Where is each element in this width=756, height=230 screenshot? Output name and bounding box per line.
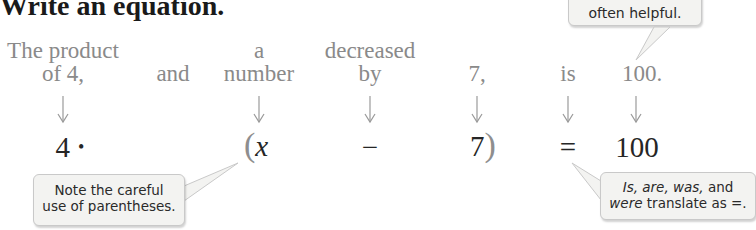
italic-words: Is, are, was, xyxy=(623,179,704,195)
eq-close-paren: ) xyxy=(485,126,496,163)
down-arrow-icons xyxy=(58,96,641,122)
down-arrow-icon xyxy=(631,96,641,122)
eq-minus: − xyxy=(362,132,378,162)
italic-words: were xyxy=(609,195,642,211)
down-arrow-icon xyxy=(365,96,375,122)
eq-x: x xyxy=(255,130,268,162)
eq-equals: = xyxy=(560,132,576,162)
down-arrow-icon xyxy=(58,96,68,122)
callout-parentheses-line1: Note the careful xyxy=(34,182,184,198)
eq-four: 4• xyxy=(56,132,85,162)
eq-open-x: (x xyxy=(244,130,268,161)
eq-dot: • xyxy=(78,137,84,157)
eq-seven: 7 xyxy=(470,130,485,162)
callout-parentheses-line2: use of parentheses. xyxy=(34,198,184,214)
down-arrow-icon xyxy=(472,96,482,122)
callout-is-are-was: Is, are, was, and were translate as =. xyxy=(600,172,756,220)
callout-tail xyxy=(636,27,670,60)
callout-tail xyxy=(184,163,238,201)
callout-is-are-was-line1: Is, are, was, and xyxy=(601,179,755,195)
down-arrow-icon xyxy=(563,96,573,122)
eq-seven-close: 7) xyxy=(470,130,496,161)
down-arrow-icon xyxy=(254,96,264,122)
eq-hundred: 100 xyxy=(615,132,659,162)
callout-tail xyxy=(572,163,601,200)
eq-four-value: 4 xyxy=(56,131,71,163)
eq-open-paren: ( xyxy=(244,126,255,163)
callout-parentheses: Note the careful use of parentheses. xyxy=(33,174,185,226)
plain-words: translate as =. xyxy=(643,195,747,211)
callout-is-are-was-line2: were translate as =. xyxy=(601,195,755,211)
plain-words: and xyxy=(704,179,734,195)
